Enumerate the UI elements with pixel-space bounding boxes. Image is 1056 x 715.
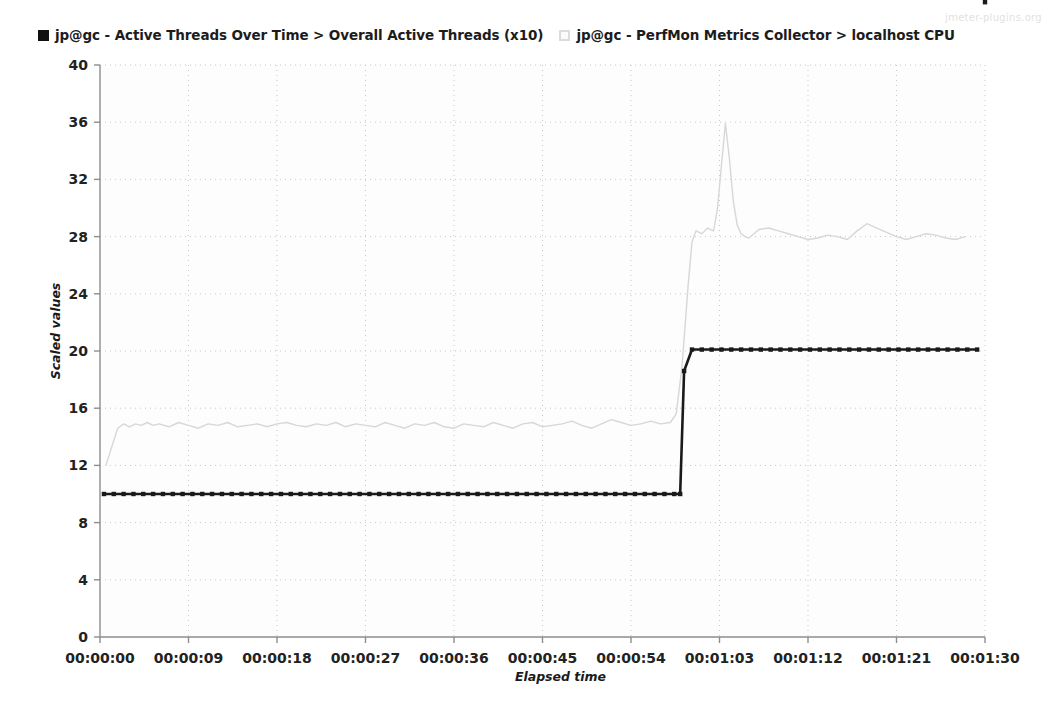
series-point-marker [682,369,686,373]
plot-area: 048121620242832364000:00:0000:00:0900:00… [0,0,1056,715]
series-point-marker [955,347,959,351]
series-point-marker [259,492,263,496]
series-point-marker [525,492,529,496]
series-point-marker [289,492,293,496]
series-point-marker [318,492,322,496]
series-point-marker [818,347,822,351]
x-tick-label: 00:00:27 [331,650,401,666]
series-point-marker [407,492,411,496]
series-point-marker [877,347,881,351]
series-point-marker [857,347,861,351]
series-point-marker [574,492,578,496]
series-point-marker [495,492,499,496]
series-point-marker [945,347,949,351]
series-point-marker [180,492,184,496]
x-tick-label: 00:00:18 [242,650,312,666]
series-point-marker [896,347,900,351]
series-point-marker [633,492,637,496]
series-point-marker [397,492,401,496]
x-tick-label: 00:00:45 [508,650,578,666]
series-point-marker [239,492,243,496]
x-tick-label: 00:01:03 [685,650,755,666]
series-point-marker [613,492,617,496]
y-tick-label: 36 [69,114,88,130]
series-point-marker [729,347,733,351]
series-point-marker [808,347,812,351]
series-point-marker [387,492,391,496]
series-point-marker [965,347,969,351]
series-point-marker [338,492,342,496]
x-tick-label: 00:01:12 [773,650,843,666]
y-axis-title: Scaled values [48,283,63,380]
x-tick-label: 00:01:21 [862,650,932,666]
series-point-marker [983,0,987,4]
y-tick-label: 32 [69,171,88,187]
series-point-marker [700,347,704,351]
series-point-marker [112,492,116,496]
series-point-marker [690,347,694,351]
series-point-marker [798,347,802,351]
series-point-marker [788,347,792,351]
y-tick-label: 16 [69,400,88,416]
series-point-marker [298,492,302,496]
series-point-marker [348,492,352,496]
series-point-marker [131,492,135,496]
y-tick-label: 28 [69,229,88,245]
series-point-marker [827,347,831,351]
series-point-marker [749,347,753,351]
series-point-marker [593,492,597,496]
series-point-marker [328,492,332,496]
series-point-marker [269,492,273,496]
series-point-marker [916,347,920,351]
series-point-marker [171,492,175,496]
series-point-marker [200,492,204,496]
chart-canvas: 048121620242832364000:00:0000:00:0900:00… [0,0,1056,715]
series-point-marker [466,492,470,496]
series-point-marker [709,347,713,351]
series-point-marker [643,492,647,496]
series-point-marker [936,347,940,351]
series-point-marker [603,492,607,496]
series-point-marker [623,492,627,496]
series-point-marker [436,492,440,496]
series-point-marker [739,347,743,351]
series-point-marker [367,492,371,496]
series-point-marker [534,492,538,496]
series-point-marker [210,492,214,496]
series-point-marker [190,492,194,496]
series-point-marker [778,347,782,351]
series-point-marker [652,492,656,496]
series-point-marker [475,492,479,496]
series-point-marker [906,347,910,351]
series-point-marker [121,492,125,496]
series-point-marker [426,492,430,496]
y-tick-label: 0 [78,629,88,645]
series-point-marker [515,492,519,496]
series-point-marker [926,347,930,351]
series-point-marker [505,492,509,496]
chart-panel: jmeter-plugins.org jp@gc - Active Thread… [0,0,1056,715]
series-point-marker [678,492,682,496]
series-point-marker [564,492,568,496]
x-tick-label: 00:00:09 [154,650,224,666]
y-tick-label: 20 [69,343,89,359]
y-tick-label: 40 [69,57,89,73]
series-point-marker [847,347,851,351]
series-point-marker [485,492,489,496]
series-point-marker [357,492,361,496]
x-tick-label: 00:00:54 [596,650,666,666]
series-point-marker [161,492,165,496]
series-point-marker [672,492,676,496]
x-axis-title: Elapsed time [515,669,606,684]
y-tick-label: 8 [78,515,88,531]
series-point-marker [377,492,381,496]
series-point-marker [662,492,666,496]
series-point-marker [456,492,460,496]
series-point-marker [446,492,450,496]
series-point-marker [584,492,588,496]
series-point-marker [102,492,106,496]
y-tick-label: 24 [69,286,89,302]
series-point-marker [279,492,283,496]
series-point-marker [151,492,155,496]
series-point-marker [759,347,763,351]
